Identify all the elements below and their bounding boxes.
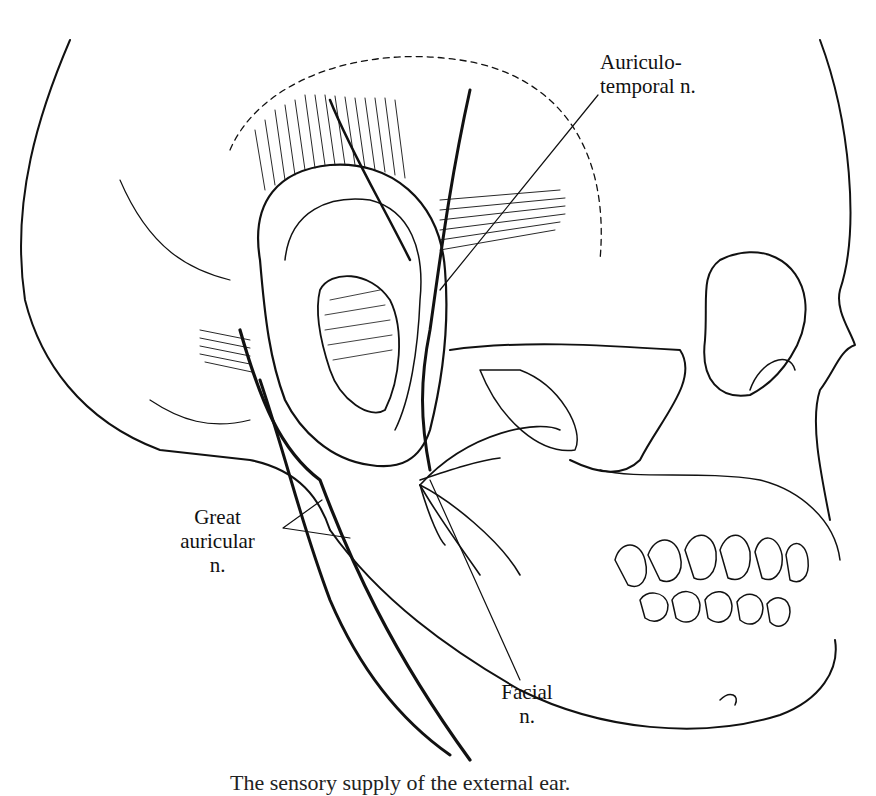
label-facial-nerve: Facial n.	[492, 680, 562, 728]
label-line: Auriculo-	[600, 50, 696, 74]
antihelix	[285, 199, 421, 430]
facial-nerve-branches	[420, 427, 560, 575]
mandible	[330, 530, 836, 729]
facial-leader	[430, 480, 520, 680]
orbit	[704, 252, 805, 396]
zygomatic-arch	[450, 344, 685, 471]
auricular-muscle-fibers	[200, 95, 565, 372]
label-great-auricular-nerve: Great auricular n.	[160, 505, 275, 577]
label-line: n.	[492, 704, 562, 728]
label-line: Great	[160, 505, 275, 529]
label-line: n.	[160, 553, 275, 577]
cranium-top	[816, 40, 855, 520]
label-line: auricular	[160, 529, 275, 553]
figure-caption: The sensory supply of the external ear.	[230, 770, 570, 796]
label-auriculotemporal-nerve: Auriculo- temporal n.	[600, 50, 696, 98]
label-line: temporal n.	[600, 74, 696, 98]
teeth	[615, 535, 808, 626]
temporal-outline	[230, 57, 601, 260]
label-line: Facial	[492, 680, 562, 704]
auricle-helix	[258, 165, 446, 467]
